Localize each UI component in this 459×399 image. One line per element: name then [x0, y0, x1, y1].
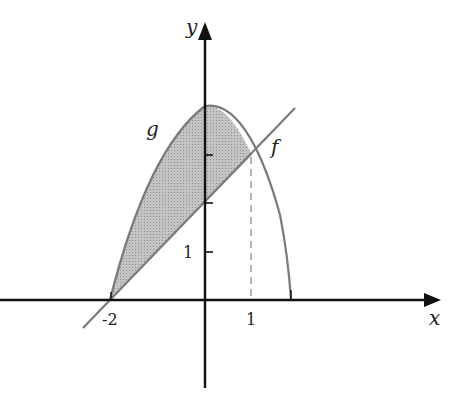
- tick-label-xneg2: -2: [102, 310, 118, 329]
- curve-g-label: g: [146, 117, 159, 141]
- y-axis-arrow-icon: [198, 22, 212, 40]
- curve-f-label: f: [269, 135, 282, 159]
- shaded-region: [110, 106, 252, 300]
- tick-label-y1: 1: [183, 243, 193, 262]
- x-axis-arrow-icon: [424, 293, 441, 307]
- y-axis-label: y: [185, 15, 198, 39]
- graph-canvas: y x g f -2 1 1: [0, 0, 459, 399]
- x-axis-label: x: [429, 306, 440, 330]
- tick-label-x1: 1: [246, 310, 256, 329]
